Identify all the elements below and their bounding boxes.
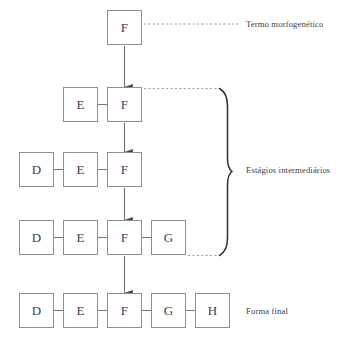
node-box-r5-h: H — [195, 293, 230, 328]
node-label: E — [76, 98, 84, 111]
node-box-r3-f: F — [107, 152, 142, 187]
node-box-r2-e: E — [63, 87, 98, 122]
intermediate-stages-brace — [220, 89, 233, 256]
node-label: E — [76, 163, 84, 176]
node-box-r3-d: D — [19, 152, 54, 187]
node-box-r3-e: E — [63, 152, 98, 187]
node-label: D — [32, 163, 42, 176]
node-box-r4-e: E — [63, 220, 98, 255]
node-label: E — [76, 304, 84, 317]
node-label: H — [208, 304, 218, 317]
node-box-r4-f: F — [107, 220, 142, 255]
node-label: E — [76, 231, 84, 244]
node-box-r1-f: F — [107, 10, 142, 45]
node-label: F — [121, 231, 128, 244]
annotation-termo-morfogenetico: Termo morfogenético — [246, 19, 323, 29]
node-label: D — [32, 231, 42, 244]
morphogenesis-diagram: F E F D E F D E F G D E F G H Termo — [0, 0, 350, 343]
node-box-r4-g: G — [151, 220, 186, 255]
node-label: G — [164, 231, 174, 244]
node-label: F — [121, 98, 128, 111]
annotation-forma-final: Forma final — [246, 306, 288, 316]
node-label: F — [121, 304, 128, 317]
node-label: F — [121, 21, 128, 34]
node-label: G — [164, 304, 174, 317]
node-box-r4-d: D — [19, 220, 54, 255]
node-label: D — [32, 304, 42, 317]
node-box-r5-d: D — [19, 293, 54, 328]
node-box-r5-f: F — [107, 293, 142, 328]
annotation-estagios-intermediarios: Estágios intermediários — [246, 165, 330, 175]
node-box-r2-f: F — [107, 87, 142, 122]
node-box-r5-g: G — [151, 293, 186, 328]
node-label: F — [121, 163, 128, 176]
node-box-r5-e: E — [63, 293, 98, 328]
